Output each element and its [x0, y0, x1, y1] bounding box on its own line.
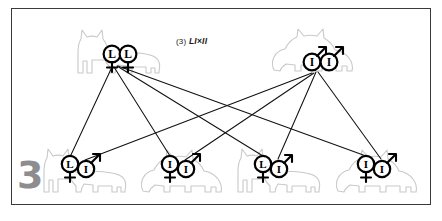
offspring-2-allele-group[interactable]: I I: [162, 154, 200, 182]
female-symbol-icon: [258, 172, 268, 182]
allele-letter: L: [259, 158, 266, 170]
offspring-4-allele-female[interactable]: I: [358, 156, 374, 182]
offspring-3-allele-male[interactable]: I: [271, 155, 292, 177]
offspring-3-allele-group[interactable]: L I: [255, 155, 292, 182]
female-symbol-icon: [65, 172, 75, 182]
genetics-cross-figure: L L I: [0, 0, 442, 221]
allele-letter: I: [364, 158, 368, 170]
allele-letter: L: [66, 158, 73, 170]
cross-title-left-allele: LI: [189, 36, 197, 46]
line-parent-right-to-offspring-4: [318, 72, 381, 159]
cross-title: (3) LI×II: [176, 36, 207, 46]
figure-number: 3: [17, 156, 42, 194]
allele-letter: I: [327, 56, 332, 68]
line-parent-left-to-offspring-1: [70, 67, 112, 157]
allele-letter: L: [124, 48, 132, 60]
allele-letter: I: [168, 158, 172, 170]
cross-title-right-allele: II: [202, 36, 207, 46]
offspring-1-allele-female[interactable]: L: [62, 156, 78, 182]
allele-letter: I: [277, 163, 281, 175]
offspring-3-allele-female[interactable]: L: [255, 156, 271, 182]
allele-letter: I: [310, 56, 315, 68]
allele-letter: L: [108, 48, 116, 60]
parent-left-allele-2[interactable]: L: [120, 46, 137, 72]
line-parent-right-to-offspring-2: [185, 73, 314, 160]
female-symbol-icon: [361, 172, 371, 182]
offspring-1-allele-male[interactable]: I: [78, 154, 100, 177]
offspring-2-allele-female[interactable]: I: [162, 156, 178, 182]
female-symbol-icon: [165, 172, 175, 182]
offspring-4-allele-group[interactable]: I I: [358, 154, 396, 182]
cross-title-prefix: (3): [176, 37, 186, 46]
parent-left-allele-1[interactable]: L: [104, 46, 121, 72]
allele-letter: I: [184, 163, 188, 175]
offspring-4-allele-male[interactable]: I: [374, 154, 396, 177]
male-symbol-icon: [284, 155, 292, 163]
diagram-canvas: L L I: [0, 0, 442, 221]
line-parent-left-to-offspring-2: [114, 67, 170, 156]
offspring-1-allele-group[interactable]: L I: [62, 154, 100, 182]
male-symbol-icon: [91, 154, 100, 163]
line-parent-right-to-offspring-1: [85, 73, 312, 160]
allele-letter: I: [84, 163, 88, 175]
allele-letter: I: [380, 163, 384, 175]
inheritance-lines: [70, 66, 381, 160]
